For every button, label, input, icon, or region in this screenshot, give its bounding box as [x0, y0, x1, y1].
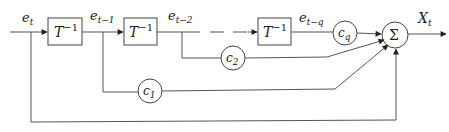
- branch-wire-et2: [182, 32, 221, 58]
- wire-c1-to-sum: [162, 45, 388, 91]
- svg-text:et−2: et−2: [168, 8, 193, 25]
- ma-filter-block-diagram: T−1 T−1 T−1 cq Σ Xt c2 c1 et et−1 et−2 e…: [0, 0, 449, 132]
- svg-text:et−1: et−1: [90, 8, 115, 25]
- svg-text:Xt: Xt: [417, 10, 432, 28]
- svg-text:et: et: [22, 10, 34, 27]
- svg-text:et−q: et−q: [299, 10, 324, 27]
- sigma-symbol: Σ: [389, 27, 399, 43]
- wire-cq-to-sum: [357, 33, 381, 34]
- branch-wire-et: [31, 32, 396, 122]
